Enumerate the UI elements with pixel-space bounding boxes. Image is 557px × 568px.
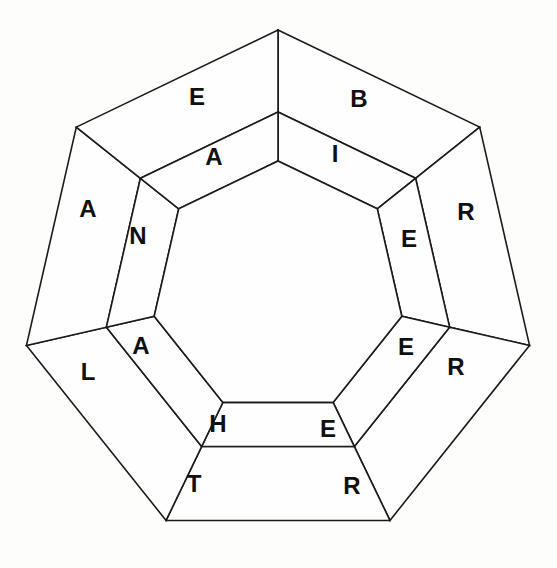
inner-ring-letter-5: H	[209, 410, 226, 437]
inner-ring-letter-2: E	[401, 225, 417, 252]
inner-ring-letter-0: A	[205, 143, 222, 170]
inner-ring-letter-6: A	[132, 332, 149, 359]
outer-ring-letter-6: L	[81, 358, 96, 385]
inner-ring-letter-3: E	[398, 333, 414, 360]
inner-ring-letter-7: N	[129, 222, 146, 249]
word-wheel-diagram: EBRRRTLA AIEEEHAN	[0, 0, 557, 568]
outer-ring-letter-5: T	[187, 470, 202, 497]
outer-ring-letter-7: A	[79, 195, 96, 222]
puzzle-canvas: EBRRRTLA AIEEEHAN	[0, 0, 557, 568]
outer-ring-letter-4: R	[343, 472, 360, 499]
outer-ring-letter-2: R	[457, 198, 474, 225]
outer-ring-letter-0: E	[189, 83, 205, 110]
inner-ring-letter-4: E	[320, 415, 336, 442]
inner-ring-letter-1: I	[332, 140, 339, 167]
outer-ring-letter-1: B	[350, 85, 367, 112]
outer-ring-letter-3: R	[447, 353, 464, 380]
